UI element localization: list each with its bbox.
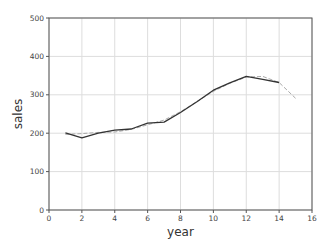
x-tick-label: 8 <box>178 214 183 223</box>
x-tick-label: 0 <box>47 214 52 223</box>
y-tick-label: 100 <box>30 167 45 176</box>
line-chart: 0246810121416 0100200300400500 year sale… <box>0 0 331 245</box>
x-axis-ticks: 0246810121416 <box>47 210 317 223</box>
series-line-actual <box>65 76 279 137</box>
x-tick-label: 14 <box>274 214 284 223</box>
y-tick-label: 200 <box>30 129 45 138</box>
x-axis-label: year <box>167 225 194 239</box>
y-tick-label: 400 <box>30 52 45 61</box>
x-tick-label: 12 <box>241 214 251 223</box>
x-tick-label: 6 <box>145 214 150 223</box>
grid-lines <box>49 18 312 210</box>
y-axis-label: sales <box>11 99 25 130</box>
y-tick-label: 300 <box>30 90 45 99</box>
y-tick-label: 0 <box>39 206 44 215</box>
x-tick-label: 10 <box>209 214 219 223</box>
x-tick-label: 16 <box>307 214 317 223</box>
y-axis-ticks: 0100200300400500 <box>30 14 49 215</box>
x-tick-label: 2 <box>79 214 84 223</box>
x-tick-label: 4 <box>112 214 117 223</box>
y-tick-label: 500 <box>30 14 45 23</box>
